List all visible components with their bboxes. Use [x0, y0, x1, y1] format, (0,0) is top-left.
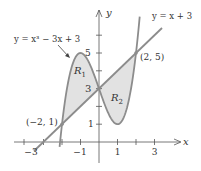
graph-svg: y x −3 −1 1 3 1 3 5 y = x³ − 3x + 3 y = …	[0, 0, 201, 171]
cubic-equation-label: y = x³ − 3x + 3	[13, 34, 80, 44]
point-label-2-5: (2, 5)	[140, 52, 164, 62]
y-tick-label-3: 3	[85, 83, 91, 94]
x-tick-label-neg1: −1	[73, 147, 86, 157]
point-dot-2-5	[134, 51, 138, 55]
line-equation-label: y = x + 3	[151, 11, 192, 21]
point-dot-neg2-1	[60, 122, 64, 126]
graph-figure: y x −3 −1 1 3 1 3 5 y = x³ − 3x + 3 y = …	[0, 0, 201, 171]
x-tick-label-1: 1	[115, 147, 121, 157]
point-label-neg2-1: (−2, 1)	[26, 117, 58, 127]
x-tick-label-3: 3	[152, 147, 158, 157]
point-dot-0-3	[97, 87, 101, 91]
y-tick-label-5: 5	[85, 48, 91, 58]
x-axis-label: x	[183, 136, 189, 147]
x-tick-label-neg3: −3	[24, 147, 38, 157]
y-tick-label-1: 1	[88, 119, 94, 129]
y-axis-label: y	[105, 7, 112, 18]
